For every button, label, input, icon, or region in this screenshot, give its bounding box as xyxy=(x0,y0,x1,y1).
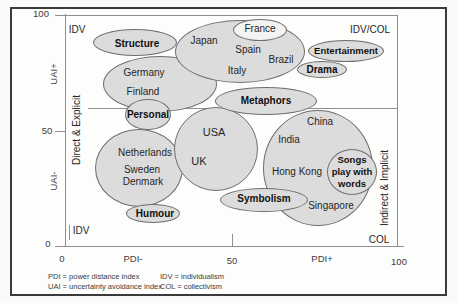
y-axis xyxy=(65,14,66,247)
x-tick-0: 0 xyxy=(59,254,64,264)
legend-uai: UAI = uncertainty avoidance index xyxy=(48,283,162,291)
x-tick-100: 100 xyxy=(391,257,407,267)
label-songs-line1: Songs xyxy=(337,155,366,165)
label-singapore: Singapore xyxy=(308,201,354,211)
label-italy: Italy xyxy=(228,66,246,76)
label-germany: Germany xyxy=(123,68,164,78)
idv-corner-tick xyxy=(69,225,70,240)
ellipse-usa-uk xyxy=(174,107,258,191)
label-china: China xyxy=(307,117,333,127)
x-axis-50-tick xyxy=(232,234,233,246)
corner-label-idv-top: IDV xyxy=(69,25,86,35)
left-annotation-direct-explicit: Direct & Explicit xyxy=(72,95,82,165)
y-axis-label-uai-minus: UAI- xyxy=(49,172,59,191)
label-drama: Drama xyxy=(306,65,337,75)
label-denmark: Denmark xyxy=(123,177,164,187)
label-metaphors: Metaphors xyxy=(241,96,292,106)
y-axis-50-tick xyxy=(55,131,65,132)
label-usa: USA xyxy=(203,127,226,138)
label-structure: Structure xyxy=(115,39,159,49)
label-songs-line2: play with xyxy=(332,167,373,177)
x-axis xyxy=(55,246,404,247)
label-symbolism: Symbolism xyxy=(237,194,290,204)
label-personal: Personal xyxy=(127,110,169,120)
x-axis-label-pdi-minus: PDI- xyxy=(124,254,143,264)
label-france: France xyxy=(244,24,275,34)
label-uk: UK xyxy=(191,156,206,167)
plot-right-border xyxy=(397,15,398,247)
label-spain: Spain xyxy=(235,45,261,55)
x-axis-label-pdi-plus: PDI+ xyxy=(311,254,332,264)
label-india: India xyxy=(278,135,300,145)
y-tick-0: 0 xyxy=(45,239,50,249)
legend-idv: IDV = individualism xyxy=(160,273,224,281)
figure-canvas: Structure Japan France Spain Brazil Ital… xyxy=(0,0,458,303)
right-annotation-indirect-implicit: Indirect & Implicit xyxy=(380,150,390,226)
corner-label-idv-col: IDV/COL xyxy=(350,25,390,35)
label-hong-kong: Hong Kong xyxy=(272,167,322,177)
label-brazil: Brazil xyxy=(268,55,293,65)
label-finland: Finland xyxy=(127,87,160,97)
plot-top-border xyxy=(55,15,397,16)
label-entertainment: Entertainment xyxy=(314,46,378,56)
corner-label-col-bottom: COL xyxy=(369,235,390,245)
y-tick-50: 50 xyxy=(42,126,53,136)
label-japan: Japan xyxy=(190,36,217,46)
corner-label-idv-bottom: IDV xyxy=(73,226,90,236)
legend-pdi: PDI = power distance index xyxy=(48,273,140,281)
label-netherlands: Netherlands xyxy=(118,148,172,158)
label-humour: Humour xyxy=(136,209,174,219)
legend-col: COL = collectivism xyxy=(160,283,222,291)
label-sweden: Sweden xyxy=(124,165,160,175)
label-songs-line3: words xyxy=(338,179,366,189)
y-tick-100: 100 xyxy=(33,9,49,19)
x-tick-50: 50 xyxy=(227,256,238,266)
y-axis-label-uai-plus: UAI+ xyxy=(49,63,59,84)
